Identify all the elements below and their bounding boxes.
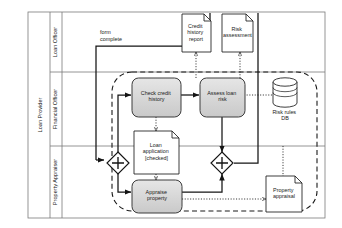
lane-label-property-appraiser: Property Appraiser bbox=[52, 159, 58, 205]
flow-label-form-complete: form complete bbox=[100, 29, 122, 42]
gateway-parallel-join[interactable] bbox=[211, 152, 233, 174]
task-assess-loan-risk[interactable]: Assess loan risk bbox=[200, 78, 245, 117]
data-object-risk-assessment[interactable]: Risk assessment bbox=[222, 14, 253, 52]
task-appraise-property[interactable]: Appraise property bbox=[132, 180, 182, 213]
task-check-credit-history[interactable]: Check credit history bbox=[132, 78, 181, 117]
data-object-loan-application-checked[interactable]: Loan application [checked] bbox=[134, 131, 179, 174]
pool-label: Loan Provider bbox=[37, 97, 43, 132]
lane-label-loan-officer: Loan Officer bbox=[52, 27, 58, 58]
data-object-property-appraisal[interactable]: Property appraisal bbox=[266, 176, 302, 212]
diagram-canvas: Loan Provider Loan Officer Financial Off… bbox=[0, 0, 342, 228]
lane-label-financial-officer: Financial Officer bbox=[52, 89, 58, 129]
bpmn-diagram: Loan Provider Loan Officer Financial Off… bbox=[0, 0, 342, 228]
data-associations bbox=[156, 52, 283, 199]
gateway-parallel-split[interactable] bbox=[107, 152, 129, 174]
data-store-risk-rules-db[interactable]: Risk rules DB bbox=[272, 78, 297, 122]
data-object-label: Property appraisal bbox=[273, 187, 295, 199]
data-object-credit-history-report[interactable]: Credit history report bbox=[182, 14, 211, 52]
task-label: Appraise property bbox=[146, 189, 169, 201]
data-store-label: Risk rules DB bbox=[272, 109, 297, 121]
data-object-label: Credit history report bbox=[187, 23, 204, 42]
